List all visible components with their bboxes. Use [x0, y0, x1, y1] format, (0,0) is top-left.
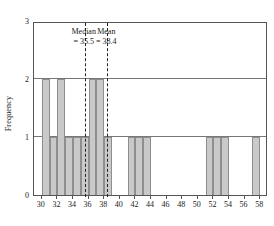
histogram-bar [213, 137, 221, 195]
x-tick-mark [41, 196, 42, 199]
plot-area [33, 22, 267, 196]
x-tick-label: 32 [52, 201, 60, 209]
y-tick-label: 2 [25, 76, 29, 84]
histogram-bar [73, 137, 81, 195]
mean-annotation-title: Mean [96, 27, 117, 37]
x-tick-mark [259, 196, 260, 199]
histogram-figure: Frequency 0123 3032343638404244464850525… [0, 0, 274, 226]
x-tick-label: 52 [208, 201, 216, 209]
x-tick-mark [134, 196, 135, 199]
x-tick-mark [88, 196, 89, 199]
x-tick-label: 50 [193, 201, 201, 209]
y-axis: Frequency 0123 [0, 0, 33, 226]
y-tick-label: 0 [25, 192, 29, 200]
median-annotation: Median= 35.5 [71, 27, 95, 47]
x-tick-label: 40 [115, 201, 123, 209]
mean-annotation: Mean= 38.4 [96, 27, 117, 47]
histogram-bar [65, 137, 73, 195]
histogram-bar [42, 79, 50, 195]
x-tick-mark [166, 196, 167, 199]
histogram-bar [221, 137, 229, 195]
x-tick-label: 34 [68, 201, 76, 209]
x-tick-mark [56, 196, 57, 199]
gridline-y-2 [34, 78, 266, 79]
histogram-bar [252, 137, 260, 195]
x-tick-mark [212, 196, 213, 199]
histogram-bar [57, 79, 65, 195]
x-tick-label: 38 [99, 201, 107, 209]
histogram-bar [96, 79, 104, 195]
histogram-bar [128, 137, 136, 195]
median-annotation-title: Median [71, 27, 95, 37]
y-axis-title: Frequency [4, 84, 13, 144]
x-tick-label: 44 [146, 201, 154, 209]
x-tick-label: 54 [224, 201, 232, 209]
x-tick-mark [72, 196, 73, 199]
x-tick-mark [228, 196, 229, 199]
x-tick-label: 30 [37, 201, 45, 209]
histogram-bar [206, 137, 214, 195]
x-tick-mark [181, 196, 182, 199]
x-tick-mark [119, 196, 120, 199]
x-axis: 303234363840424446485052545658 [33, 196, 267, 224]
x-tick-label: 46 [162, 201, 170, 209]
median-annotation-value: = 35.5 [71, 37, 95, 47]
x-tick-mark [244, 196, 245, 199]
x-tick-mark [197, 196, 198, 199]
x-tick-label: 48 [177, 201, 185, 209]
x-tick-label: 56 [240, 201, 248, 209]
x-tick-mark [150, 196, 151, 199]
y-tick-label: 3 [25, 18, 29, 26]
mean-annotation-value: = 38.4 [96, 37, 117, 47]
mean-reference-line [107, 23, 108, 197]
x-tick-label: 42 [130, 201, 138, 209]
median-reference-line [85, 23, 86, 197]
histogram-bar [50, 137, 58, 195]
x-tick-label: 58 [255, 201, 263, 209]
x-tick-label: 36 [84, 201, 92, 209]
x-tick-mark [103, 196, 104, 199]
histogram-bar [143, 137, 151, 195]
histogram-bar [135, 137, 143, 195]
histogram-bar [89, 79, 97, 195]
y-tick-label: 1 [25, 134, 29, 142]
